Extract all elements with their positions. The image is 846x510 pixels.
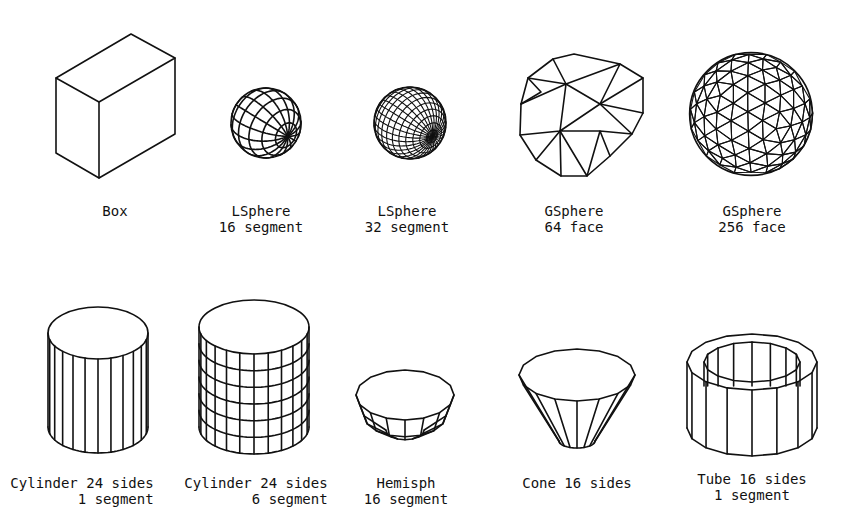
label-line: Cylinder 24 sides (184, 475, 327, 491)
label-line: Box (102, 203, 127, 219)
label-line: 32 segment (365, 219, 449, 235)
label-line: 6 segment (184, 491, 327, 507)
label-cylinder-6: Cylinder 24 sides 6 segment (184, 475, 327, 507)
label-line: GSphere (718, 203, 785, 219)
label-line: Cylinder 24 sides (10, 475, 153, 491)
gsphere-64-face-shape (520, 54, 643, 176)
label-line: LSphere (219, 203, 303, 219)
gsphere-256-face-shape (690, 53, 813, 176)
cylinder-24-sides-1-segment-shape (48, 307, 148, 453)
tube-16-sides-1-segment-shape (687, 334, 817, 456)
primitives-diagram (0, 0, 846, 510)
label-gsphere-256: GSphere256 face (718, 203, 785, 235)
box-shape (56, 34, 175, 178)
label-tube: Tube 16 sides1 segment (697, 471, 807, 503)
label-line: Cone 16 sides (522, 475, 632, 491)
label-box: Box (102, 203, 127, 219)
label-lsphere-32: LSphere32 segment (365, 203, 449, 235)
label-cylinder-1: Cylinder 24 sides 1 segment (10, 475, 153, 507)
label-line: Tube 16 sides (697, 471, 807, 487)
cone-16-sides-shape (519, 349, 635, 448)
label-gsphere-64: GSphere64 face (544, 203, 603, 235)
label-line: 64 face (544, 219, 603, 235)
cylinder-24-sides-6-segment-shape (199, 300, 309, 454)
label-lsphere-16: LSphere16 segment (219, 203, 303, 235)
label-cone: Cone 16 sides (522, 475, 632, 491)
hemisphere-16-segment-shape (356, 370, 454, 440)
label-hemisph: Hemisph16 segment (364, 475, 448, 507)
lsphere-16-segment-shape (231, 88, 301, 158)
label-line: GSphere (544, 203, 603, 219)
label-line: 1 segment (697, 487, 807, 503)
label-line: 16 segment (219, 219, 303, 235)
label-line: Hemisph (364, 475, 448, 491)
label-line: LSphere (365, 203, 449, 219)
label-line: 1 segment (10, 491, 153, 507)
label-line: 16 segment (364, 491, 448, 507)
label-line: 256 face (718, 219, 785, 235)
lsphere-32-segment-shape (374, 87, 446, 159)
